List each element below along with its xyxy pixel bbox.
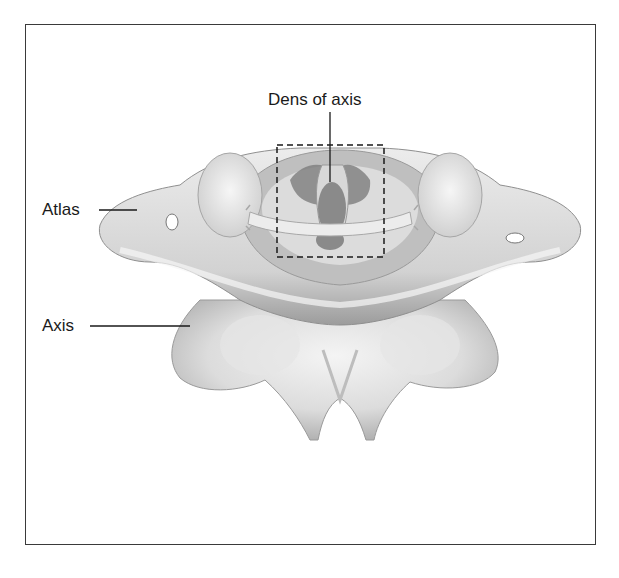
atlas-vertebra <box>99 148 580 325</box>
vertebrae-illustration <box>0 0 619 578</box>
label-dens-of-axis: Dens of axis <box>268 91 362 108</box>
label-atlas: Atlas <box>42 201 80 218</box>
label-axis: Axis <box>42 317 74 334</box>
